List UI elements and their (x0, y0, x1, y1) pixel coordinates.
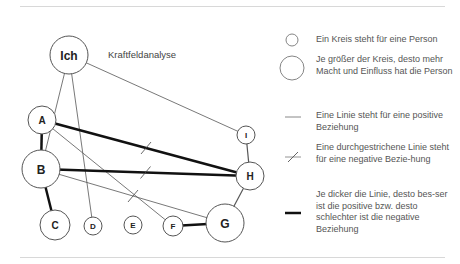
svg-text:H: H (246, 171, 253, 182)
svg-text:E: E (130, 221, 136, 230)
node-i: I (237, 126, 255, 144)
node-a: A (28, 106, 56, 134)
svg-text:A: A (38, 115, 45, 126)
legend-small-circle-icon (286, 34, 298, 46)
svg-text:G: G (220, 217, 229, 231)
relationship-lines (41, 55, 250, 226)
person-nodes: IchABCDEFGHI (22, 36, 264, 242)
legend-text-thickness: Je dicker die Linie, desto bes-ser ist d… (316, 189, 456, 235)
diagram-title: Kraftfeldanalyse (108, 49, 176, 60)
legend-text-negative: Eine durchgestrichene Linie steht für ei… (316, 142, 456, 165)
node-g: G (206, 204, 244, 242)
node-d: D (84, 217, 102, 235)
svg-text:Ich: Ich (60, 49, 77, 63)
legend-text-power: Je größer der Kreis, desto mehr Macht un… (316, 54, 456, 77)
node-ich: Ich (50, 36, 88, 74)
svg-text:F: F (171, 222, 176, 231)
node-c: C (40, 210, 70, 240)
svg-text:I: I (245, 131, 247, 140)
svg-text:C: C (51, 220, 58, 231)
node-e: E (124, 216, 142, 234)
legend-text-person: Ein Kreis steht für eine Person (316, 34, 456, 46)
svg-text:D: D (90, 222, 96, 231)
svg-text:B: B (37, 163, 46, 177)
edge-Ich-D (69, 55, 93, 226)
legend-large-circle-icon (280, 56, 304, 80)
node-b: B (22, 150, 60, 188)
edge-Ich-I (69, 55, 246, 135)
legend-crossed-line-icon (285, 152, 301, 162)
node-h: H (236, 162, 264, 190)
legend-text-positive: Eine Linie steht für eine positive Bezie… (316, 110, 456, 133)
node-f: F (163, 216, 183, 236)
